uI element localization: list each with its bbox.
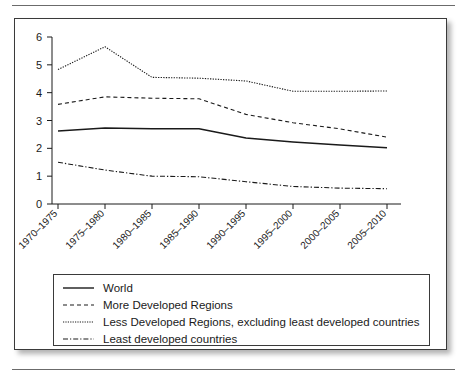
- y-tick-label: 5: [36, 59, 42, 71]
- y-tick-label: 3: [36, 115, 42, 127]
- legend-label-least-developed: Least developed countries: [103, 333, 237, 346]
- x-tick-label: 1995–2000: [251, 207, 294, 250]
- legend-swatch-dashdot-icon: [63, 333, 94, 345]
- bottom-horizontal-rule: [12, 369, 455, 370]
- y-tick-label: 6: [36, 31, 42, 43]
- legend-item-less-developed: Less Developed Regions, excluding least …: [54, 314, 429, 330]
- figure-container: 0123456 1970–19751975–19801980–19851985–…: [14, 18, 447, 350]
- y-tick-label: 4: [36, 87, 42, 99]
- x-tick-label: 1975–1980: [63, 207, 106, 250]
- x-axis-ticks: [58, 204, 387, 209]
- legend-item-least-developed: Least developed countries: [54, 331, 429, 347]
- series-line: [58, 47, 387, 92]
- legend-label-more-developed: More Developed Regions: [103, 299, 233, 312]
- x-axis-tick-labels: 1970–19751975–19801980–19851985–19901990…: [16, 207, 388, 250]
- chart-legend: World More Developed Regions Less Develo…: [53, 274, 430, 346]
- legend-item-more-developed: More Developed Regions: [54, 297, 429, 313]
- x-tick-label: 1970–1975: [16, 207, 59, 250]
- x-tick-label: 2000–2005: [298, 207, 341, 250]
- legend-swatch-solid-icon: [63, 282, 94, 294]
- y-axis-ticks: 0123456: [36, 31, 52, 210]
- x-tick-label: 1990–1995: [204, 207, 247, 250]
- series-line: [58, 162, 387, 188]
- top-horizontal-rule: [12, 5, 455, 6]
- legend-swatch-dotted-icon: [63, 316, 94, 328]
- x-tick-label: 1980–1985: [110, 207, 153, 250]
- series-line: [58, 128, 387, 148]
- legend-label-world: World: [103, 282, 133, 295]
- y-tick-label: 1: [36, 170, 42, 182]
- data-series-group: [58, 47, 387, 189]
- series-line: [58, 97, 387, 137]
- y-tick-label: 0: [36, 198, 42, 210]
- axes: [52, 37, 401, 204]
- legend-label-less-developed: Less Developed Regions, excluding least …: [103, 316, 419, 329]
- legend-item-world: World: [54, 280, 429, 296]
- y-tick-label: 2: [36, 142, 42, 154]
- x-tick-label: 2005–2010: [345, 207, 388, 250]
- x-tick-label: 1985–1990: [157, 207, 200, 250]
- legend-swatch-dashed-icon: [63, 299, 94, 311]
